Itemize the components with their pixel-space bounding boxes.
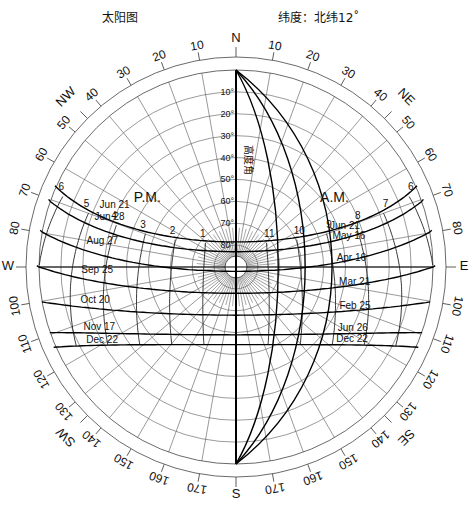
compass-label-sw: SW xyxy=(52,424,78,450)
date-label-pm: Aug 27 xyxy=(86,235,118,246)
azimuth-label: 130 xyxy=(396,399,420,424)
azimuth-label: 70 xyxy=(16,181,34,199)
azimuth-line xyxy=(169,277,233,452)
azimuth-label: 170 xyxy=(264,480,286,497)
date-label-am: Apr 16 xyxy=(337,252,367,263)
azimuth-fine-line xyxy=(246,272,272,284)
azimuth-label: 160 xyxy=(301,468,325,488)
date-label-pm: Jun 28 xyxy=(95,211,125,222)
compass-label-e: E xyxy=(460,258,469,273)
date-label-am: Feb 25 xyxy=(339,300,371,311)
altitude-tick-label: 10° xyxy=(220,87,234,97)
azimuth-line xyxy=(245,169,406,262)
azimuth-tick xyxy=(198,474,199,482)
azimuth-line xyxy=(42,269,225,301)
azimuth-label: 30 xyxy=(339,63,358,82)
pm-label: P.M. xyxy=(134,189,161,205)
azimuth-tick xyxy=(31,339,39,342)
azimuth-tick xyxy=(443,303,451,304)
hour-label-am: 11 xyxy=(264,228,275,239)
compass-label-n: N xyxy=(231,30,240,45)
azimuth-line xyxy=(246,271,421,335)
altitude-tick-label: 70° xyxy=(220,218,234,228)
azimuth-fine-line xyxy=(233,278,235,306)
date-label-am: Dec 22 xyxy=(336,333,368,344)
azimuth-tick xyxy=(47,158,54,162)
azimuth-fine-line xyxy=(197,264,225,266)
altitude-tick-label: 60° xyxy=(220,196,234,206)
azimuth-fine-line xyxy=(247,264,275,266)
azimuth-tick xyxy=(418,372,425,376)
altitude-tick-label: 30° xyxy=(220,131,234,141)
altitude-tick-label: 40° xyxy=(220,153,234,163)
azimuth-tick xyxy=(397,402,403,407)
azimuth-tick xyxy=(96,428,101,434)
azimuth-tick xyxy=(127,449,131,456)
azimuth-line xyxy=(244,140,387,260)
compass-tick xyxy=(384,415,391,422)
azimuth-tick xyxy=(418,158,425,162)
azimuth-label: 140 xyxy=(79,427,104,451)
compass-label-w: W xyxy=(2,258,15,273)
azimuth-line xyxy=(240,277,304,452)
compass-label-s: S xyxy=(232,486,241,501)
compass-tick xyxy=(80,415,87,422)
compass-label-ne: NE xyxy=(395,85,419,109)
azimuth-tick xyxy=(161,62,164,70)
azimuth-label: 40 xyxy=(371,85,390,105)
azimuth-fine-line xyxy=(244,275,264,295)
azimuth-label: 140 xyxy=(368,427,393,451)
azimuth-label: 150 xyxy=(111,450,136,472)
hour-label-am: 10 xyxy=(294,225,306,236)
azimuth-tick xyxy=(272,474,273,482)
date-label-am: Jun 26 xyxy=(338,322,368,333)
azimuth-tick xyxy=(397,127,403,132)
azimuth-tick xyxy=(371,100,376,106)
compass-label-se: SE xyxy=(395,426,418,449)
azimuth-label: 110 xyxy=(437,333,457,356)
azimuth-line xyxy=(109,275,229,418)
azimuth-label: 40 xyxy=(82,85,101,105)
hour-label-am: 8 xyxy=(355,210,361,221)
azimuth-tick xyxy=(21,303,29,304)
azimuth-label: 100 xyxy=(449,295,466,317)
azimuth-label: 120 xyxy=(30,367,52,392)
azimuth-tick xyxy=(31,192,39,195)
azimuth-line xyxy=(241,276,334,437)
compass-tick xyxy=(384,111,391,118)
azimuth-line xyxy=(243,275,363,418)
azimuth-tick xyxy=(272,52,273,60)
azimuth-tick xyxy=(47,372,54,376)
azimuth-tick xyxy=(69,402,75,407)
compass-label-nw: NW xyxy=(53,83,79,109)
azimuth-line xyxy=(245,272,406,365)
azimuth-tick xyxy=(443,229,451,230)
azimuth-tick xyxy=(308,464,311,472)
azimuth-label: 170 xyxy=(186,480,208,497)
azimuth-fine-line xyxy=(241,277,253,303)
hour-label-pm: 2 xyxy=(170,225,176,236)
azimuth-tick xyxy=(161,464,164,472)
azimuth-label: 100 xyxy=(6,295,23,317)
hour-label-pm: 4 xyxy=(111,210,117,221)
azimuth-line xyxy=(202,278,234,461)
azimuth-tick xyxy=(341,78,345,85)
azimuth-line xyxy=(65,272,226,365)
date-label-pm: Dec 22 xyxy=(86,334,118,345)
azimuth-label: 30 xyxy=(114,63,133,82)
azimuth-label: 120 xyxy=(419,367,441,392)
azimuth-tick xyxy=(69,127,75,132)
hour-label-am: 6 xyxy=(408,181,414,192)
hour-line xyxy=(39,197,63,266)
azimuth-label: 70 xyxy=(438,181,456,199)
azimuth-tick xyxy=(371,428,376,434)
azimuth-tick xyxy=(433,339,441,342)
azimuth-line xyxy=(51,271,226,335)
hour-label-pm: 6 xyxy=(58,181,64,192)
azimuth-fine-line xyxy=(219,277,231,303)
azimuth-fine-line xyxy=(237,278,239,306)
azimuth-label: 150 xyxy=(336,451,361,473)
azimuth-label: 80 xyxy=(7,220,23,236)
azimuth-tick xyxy=(21,229,29,230)
sun-path-chart: 1020304050607080100110120130140150160170… xyxy=(0,0,473,509)
